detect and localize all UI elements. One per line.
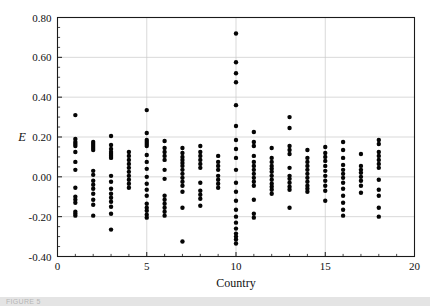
data-point: [359, 191, 363, 195]
data-point: [252, 184, 256, 188]
data-point: [91, 187, 95, 191]
data-point: [145, 202, 149, 206]
data-point: [127, 162, 131, 166]
data-point: [127, 166, 131, 170]
data-point: [73, 160, 77, 164]
data-point: [270, 170, 274, 174]
data-point: [73, 150, 77, 154]
data-point: [145, 188, 149, 192]
data-point: [359, 152, 363, 156]
data-point: [109, 143, 113, 147]
data-point: [341, 194, 345, 198]
data-point: [341, 140, 345, 144]
data-point: [252, 164, 256, 168]
data-point: [109, 156, 113, 160]
data-point: [162, 168, 166, 172]
data-point: [252, 172, 256, 176]
data-point: [252, 160, 256, 164]
data-point: [180, 190, 184, 194]
data-point: [109, 134, 113, 138]
data-point: [341, 172, 345, 176]
data-point: [162, 194, 166, 198]
data-point: [162, 206, 166, 210]
data-point: [109, 187, 113, 191]
data-point: [234, 156, 238, 160]
data-point: [91, 203, 95, 207]
data-point: [287, 148, 291, 152]
data-point: [145, 160, 149, 164]
data-point: [216, 160, 220, 164]
data-point: [234, 190, 238, 194]
data-point: [287, 152, 291, 156]
data-point: [341, 208, 345, 212]
data-point: [377, 178, 381, 182]
data-point: [341, 176, 345, 180]
x-tick-label: 20: [409, 260, 421, 272]
data-point: [341, 168, 345, 172]
data-point: [73, 213, 77, 217]
data-point: [91, 173, 95, 177]
data-point: [252, 140, 256, 144]
data-point: [234, 147, 238, 151]
data-point: [162, 139, 166, 143]
data-point: [234, 241, 238, 245]
data-point: [305, 176, 309, 180]
scatter-figure: -0.40-0.200.000.200.400.600.8005101520Co…: [0, 0, 430, 306]
y-tick-label: 0.80: [32, 12, 52, 24]
data-point: [180, 239, 184, 243]
x-tick-label: 5: [144, 260, 150, 272]
data-point: [270, 192, 274, 196]
data-point: [145, 182, 149, 186]
data-point: [162, 198, 166, 202]
data-point: [323, 174, 327, 178]
data-point: [305, 160, 309, 164]
data-point: [377, 166, 381, 170]
data-point: [73, 201, 77, 205]
y-axis-title: E: [17, 130, 26, 144]
data-point: [341, 148, 345, 152]
data-point: [109, 211, 113, 215]
data-point: [305, 156, 309, 160]
data-point: [377, 194, 381, 198]
data-point: [377, 154, 381, 158]
data-point: [109, 174, 113, 178]
data-point: [180, 180, 184, 184]
data-point: [127, 182, 131, 186]
y-tick-label: -0.20: [29, 211, 52, 223]
data-point: [377, 188, 381, 192]
data-point: [234, 237, 238, 241]
data-point: [162, 209, 166, 213]
data-point: [287, 126, 291, 130]
x-tick-label: 0: [55, 260, 61, 272]
data-point: [341, 156, 345, 160]
data-point: [198, 197, 202, 201]
data-point: [234, 138, 238, 142]
data-point: [234, 181, 238, 185]
data-point: [198, 204, 202, 208]
data-point: [252, 176, 256, 180]
data-point: [145, 194, 149, 198]
data-point: [91, 183, 95, 187]
footer-band: [0, 297, 430, 306]
data-point: [73, 186, 77, 190]
data-point: [145, 153, 149, 157]
data-point: [359, 184, 363, 188]
data-point: [287, 115, 291, 119]
y-tick-label: -0.40: [29, 251, 52, 263]
data-point: [109, 227, 113, 231]
data-point: [323, 159, 327, 163]
data-point: [323, 184, 327, 188]
data-point: [377, 150, 381, 154]
data-point: [323, 155, 327, 159]
data-point: [180, 172, 184, 176]
data-point: [323, 189, 327, 193]
x-tick-label: 15: [320, 260, 332, 272]
data-point: [109, 205, 113, 209]
data-point: [216, 164, 220, 168]
data-point: [341, 213, 345, 217]
data-point: [198, 162, 202, 166]
data-point: [359, 179, 363, 183]
footer-caption: FIGURE 5: [6, 298, 41, 306]
data-point: [377, 206, 381, 210]
data-point: [198, 150, 202, 154]
